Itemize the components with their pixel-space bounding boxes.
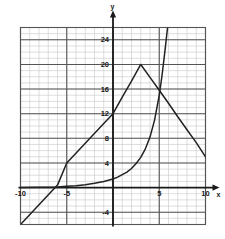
coordinate-plane-svg: 2420161284-4-10-5510 x y [0, 0, 225, 239]
y-tick-label: -4 [102, 208, 109, 217]
y-tick-label: 24 [101, 35, 110, 44]
x-tick-label: 10 [201, 189, 209, 198]
y-tick-label: 20 [101, 60, 109, 69]
y-tick-label: 16 [101, 85, 109, 94]
x-tick-label: -10 [15, 189, 26, 198]
graph-figure: 2420161284-4-10-5510 x y [0, 0, 225, 239]
x-tick-label: -5 [63, 189, 70, 198]
y-tick-label: 8 [105, 134, 109, 143]
y-axis-label: y [111, 3, 115, 11]
x-axis-label: x [217, 191, 221, 198]
y-tick-label: 12 [101, 109, 109, 118]
x-tick-label: 5 [157, 189, 161, 198]
